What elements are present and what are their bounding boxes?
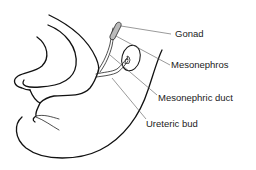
leader-gonad — [121, 26, 171, 34]
left-loop — [15, 37, 47, 90]
label-mesonephric-duct: Mesonephric duct — [158, 92, 233, 103]
lower-notch — [33, 103, 40, 122]
lower-body-curve — [16, 50, 162, 158]
leader-mesonephric-duct — [110, 55, 157, 95]
tail-line-2 — [36, 117, 59, 130]
label-ureteric-bud: Ureteric bud — [146, 118, 198, 129]
gonad-shape — [110, 22, 121, 39]
mesonephros-oval — [119, 43, 143, 73]
label-mesonephros: Mesonephros — [171, 59, 229, 70]
label-gonad: Gonad — [175, 28, 204, 39]
dorsal-outline — [49, 15, 99, 72]
body-wall-curve — [23, 25, 76, 87]
embryo-urogenital-diagram — [0, 0, 256, 170]
leader-ureteric-bud — [112, 78, 146, 119]
